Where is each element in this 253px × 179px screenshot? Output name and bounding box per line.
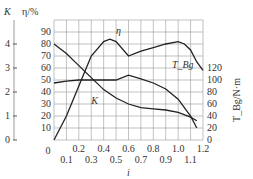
svg-text:40: 40 xyxy=(207,110,217,121)
svg-text:i: i xyxy=(127,167,130,178)
svg-text:20: 20 xyxy=(41,110,51,121)
svg-text:0: 0 xyxy=(5,134,10,145)
svg-text:3: 3 xyxy=(5,62,10,73)
svg-text:1.0: 1.0 xyxy=(172,143,185,154)
svg-text:1.2: 1.2 xyxy=(197,143,210,154)
svg-text:0.3: 0.3 xyxy=(85,154,98,165)
svg-text:T_Bg/N·m: T_Bg/N·m xyxy=(231,78,242,122)
chart: 102030405060708090001234Kη/%020406080100… xyxy=(0,0,253,179)
svg-text:60: 60 xyxy=(207,98,217,109)
svg-text:K: K xyxy=(90,95,99,106)
svg-text:4: 4 xyxy=(5,38,10,49)
svg-text:η/%: η/% xyxy=(22,6,38,17)
svg-text:T_Bg: T_Bg xyxy=(172,59,194,70)
svg-text:0.2: 0.2 xyxy=(73,143,86,154)
svg-text:10: 10 xyxy=(41,122,51,133)
svg-text:2: 2 xyxy=(5,86,10,97)
svg-text:1: 1 xyxy=(5,110,10,121)
svg-text:90: 90 xyxy=(41,26,51,37)
svg-text:100: 100 xyxy=(207,74,222,85)
svg-text:50: 50 xyxy=(41,74,51,85)
svg-text:0.9: 0.9 xyxy=(160,154,173,165)
chart-canvas: 102030405060708090001234Kη/%020406080100… xyxy=(0,0,253,179)
svg-text:60: 60 xyxy=(41,62,51,73)
svg-text:1.1: 1.1 xyxy=(184,154,197,165)
svg-text:30: 30 xyxy=(41,98,51,109)
svg-text:80: 80 xyxy=(41,38,51,49)
svg-text:40: 40 xyxy=(41,86,51,97)
svg-text:0.8: 0.8 xyxy=(147,143,160,154)
svg-text:0.1: 0.1 xyxy=(60,154,73,165)
svg-text:120: 120 xyxy=(207,62,222,73)
svg-text:0.6: 0.6 xyxy=(122,143,135,154)
svg-text:0.7: 0.7 xyxy=(135,154,148,165)
svg-text:0.4: 0.4 xyxy=(97,143,110,154)
svg-text:80: 80 xyxy=(207,86,217,97)
svg-text:20: 20 xyxy=(207,122,217,133)
svg-text:70: 70 xyxy=(41,50,51,61)
svg-text:K: K xyxy=(3,6,12,17)
svg-text:0: 0 xyxy=(46,145,51,156)
svg-text:0.5: 0.5 xyxy=(110,154,123,165)
svg-text:η: η xyxy=(116,25,121,36)
